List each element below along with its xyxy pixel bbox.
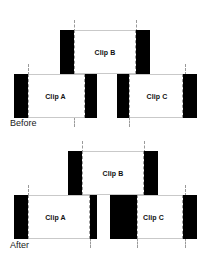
clip-label: Clip B [68,170,158,177]
clip-label: Clip C [117,93,197,100]
section-caption-before: Before [10,119,37,128]
clip-block-clip-b[interactable]: Clip B [60,30,150,74]
clip-label: Clip A [14,93,97,100]
diagram-after: Clip B Clip A Clip C After [0,131,211,263]
diagram-before: Clip B Clip A Clip C Before [0,0,211,131]
guide-tick [90,238,91,248]
guide-tick [129,117,130,127]
clip-block-clip-c[interactable]: Clip C [110,195,197,239]
clip-block-clip-c[interactable]: Clip C [117,74,197,118]
clip-label: Clip B [60,49,150,56]
guide-tick [185,238,186,248]
clip-label: Clip A [14,214,97,221]
section-caption-after: After [10,241,29,250]
clip-block-clip-a[interactable]: Clip A [14,74,97,118]
clip-label: Clip C [110,214,197,221]
guide-tick [137,238,138,248]
clip-block-clip-a[interactable]: Clip A [14,195,97,239]
clip-block-clip-b[interactable]: Clip B [68,151,158,195]
figure-canvas: Clip B Clip A Clip C Before [0,0,211,263]
guide-tick [74,117,75,127]
